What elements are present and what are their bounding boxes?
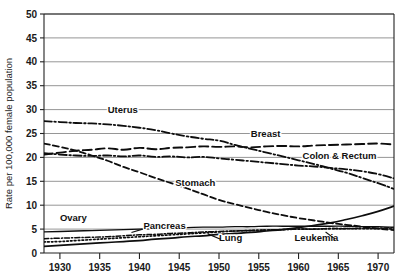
series-label-breast: Breast: [251, 128, 281, 139]
y-axis-tick-label: 5: [31, 224, 37, 235]
x-axis-tick-label: 1970: [367, 262, 390, 273]
y-axis-tick-label: 0: [31, 248, 37, 259]
y-axis-tick-label: 45: [26, 33, 38, 44]
x-axis-tick-label: 1965: [327, 262, 350, 273]
y-axis-tick-label: 35: [26, 80, 38, 91]
series-label-colon-rectum: Colon & Rectum: [303, 150, 377, 161]
y-axis-tick-label: 15: [26, 176, 38, 187]
y-axis-tick-label: 30: [26, 104, 38, 115]
x-axis-tick-label: 1955: [248, 262, 271, 273]
y-axis-tick-label: 20: [26, 152, 38, 163]
series-label-pancreas: Pancreas: [143, 220, 185, 231]
series-label-stomach: Stomach: [175, 177, 215, 188]
series-label-uterus: Uterus: [108, 104, 138, 115]
x-axis-tick-label: 1935: [89, 262, 112, 273]
x-axis-ticks: 193019351940194519501955196019651970: [49, 253, 390, 273]
x-axis-tick-label: 1940: [128, 262, 151, 273]
y-axis-title: Rate per 100,000 female population: [3, 58, 14, 209]
y-axis-tick-label: 10: [26, 200, 38, 211]
cancer-mortality-line-chart: 0510152025303540455019301935194019451950…: [0, 0, 411, 278]
y-axis-tick-label: 25: [26, 128, 38, 139]
x-axis-tick-label: 1930: [49, 262, 72, 273]
x-axis-tick-label: 1960: [287, 262, 310, 273]
x-axis-tick-label: 1950: [208, 262, 231, 273]
series-label-ovary: Ovary: [60, 212, 88, 223]
gridlines: [44, 14, 394, 229]
y-axis-tick-label: 50: [26, 9, 38, 20]
chart-canvas: 0510152025303540455019301935194019451950…: [0, 0, 411, 278]
data-series-group: [44, 121, 394, 246]
y-axis-tick-label: 40: [26, 56, 38, 67]
x-axis-tick-label: 1945: [168, 262, 191, 273]
y-axis-ticks: 05101520253035404550: [26, 9, 44, 259]
series-label-lung: Lung: [219, 232, 242, 243]
